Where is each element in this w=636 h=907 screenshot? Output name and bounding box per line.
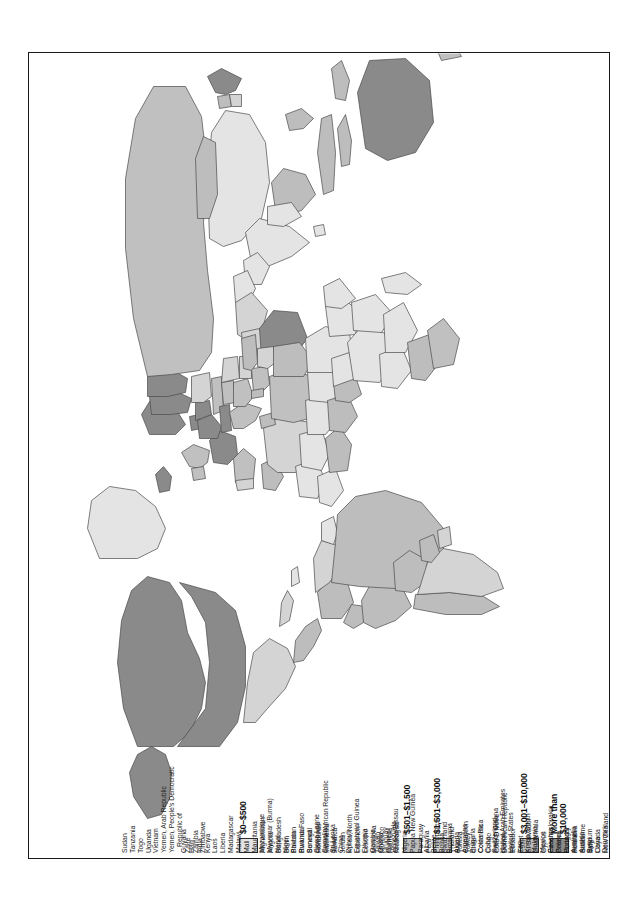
country-turkey	[241, 334, 257, 370]
legend-country-item: Zimbabwe	[199, 665, 207, 853]
legend-country-item: Turkey	[464, 665, 472, 853]
legend-country-item: Syria	[586, 665, 594, 853]
legend-country-item: Malawi	[235, 665, 243, 853]
legend-country-item: Paraguay	[417, 665, 425, 853]
legend-country-list: SudanTanzaniaTogoUgandaVietnamYemen, Ara…	[121, 665, 207, 853]
legend-country-item: Uganda	[145, 665, 153, 853]
legend-country-item: Togo	[137, 665, 145, 853]
legend-country-item: Papua New Guinea	[409, 665, 417, 853]
legend-country-item: Romania	[571, 665, 579, 853]
legend-country-item: Libya	[594, 665, 602, 853]
country-romania	[221, 356, 239, 382]
legend-country-item: Finland	[609, 665, 610, 853]
legend-country-item: Guatemala	[532, 665, 540, 853]
legend-country-item: Dominican Republic	[501, 665, 509, 853]
legend-country-item: Zambia	[192, 665, 200, 853]
country-greece	[251, 366, 269, 392]
map-figure-frame: More than $10,000AustraliaAustriaBelgium…	[28, 52, 610, 859]
legend-country-item: Ethiopia	[361, 665, 369, 853]
legend-country-item: Tunisia	[456, 665, 464, 853]
legend-country-item: Congo	[485, 665, 493, 853]
country-ireland	[191, 466, 205, 480]
legend-country-item: Côte D'Ivoire	[493, 665, 501, 853]
legend-country-item: Pakistan	[290, 665, 298, 853]
legend-country-item: Liberia	[219, 665, 227, 853]
legend-country-item: Panama	[547, 665, 555, 853]
legend-country-item: New Zealand	[602, 665, 610, 853]
legend-country-item: Philippines	[433, 665, 441, 853]
legend-country-item: Yemen, Arab Republic	[160, 665, 168, 853]
legend-country-item: Yemen, People's Democratic	[168, 665, 176, 853]
legend-country-item: Republic of	[176, 665, 184, 853]
legend-country-item: Equatorial Guinea	[353, 665, 361, 853]
legend-country-item: Nepal	[274, 665, 282, 853]
country-soviet-union	[125, 86, 213, 376]
country-austria-switzerland	[219, 404, 231, 432]
legend-country-item: Poland	[555, 665, 563, 853]
legend-country-item: Laos	[211, 665, 219, 853]
legend-country-item: Djibouti	[345, 665, 353, 853]
legend-country-item: Myanmar (Burma)	[266, 665, 274, 853]
country-hungary	[221, 380, 235, 404]
legend-country-item: Swaziland	[441, 665, 449, 853]
legend-country-item: Egypt	[517, 665, 525, 853]
country-syria-jordan	[257, 346, 275, 368]
legend-country-item: Mali	[243, 665, 251, 853]
legend-country-item: Suriname	[579, 665, 587, 853]
legend-country-item: Ecuador	[509, 665, 517, 853]
legend-country-item: Guinea	[385, 665, 393, 853]
legend-country-item: Sudan	[121, 665, 129, 853]
legend-country-item: El Salvador	[525, 665, 533, 853]
legend-country-item: Tanzania	[129, 665, 137, 853]
country-korea-south	[229, 94, 241, 106]
page-root: More than $10,000AustraliaAustriaBelgium…	[0, 0, 636, 907]
legend-country-item: Senegal	[306, 665, 314, 853]
legend-country-item: Madagascar	[227, 665, 235, 853]
legend-country-item: Guinea-Bissau	[392, 665, 400, 853]
legend-country-item: Somalia	[321, 665, 329, 853]
country-korea-north	[217, 94, 231, 108]
legend-country-item: Niger	[282, 665, 290, 853]
country-poland	[191, 372, 211, 402]
legend-country-item: Thailand	[448, 665, 456, 853]
legend-country-item: Gambia	[369, 665, 377, 853]
legend-country-item: Ghana	[377, 665, 385, 853]
legend-country-item: Vietnam	[152, 665, 160, 853]
legend-country-item: Sri Lanka	[329, 665, 337, 853]
legend-country-item: Sierra Leone	[313, 665, 321, 853]
legend-country-item: Mauritania	[251, 665, 259, 853]
legend-country-item: Mexico	[539, 665, 547, 853]
legend-country-item: Peru	[425, 665, 433, 853]
legend-country-item: Zaire	[184, 665, 192, 853]
legend-country-item: Portugal	[563, 665, 571, 853]
legend-country-item: China	[337, 665, 345, 853]
legend-country-item: Nigeria	[401, 665, 409, 853]
legend-country-item: Colombia	[477, 665, 485, 853]
legend-country-item: Mozambique	[258, 665, 266, 853]
legend-country-item: Rwanda	[298, 665, 306, 853]
